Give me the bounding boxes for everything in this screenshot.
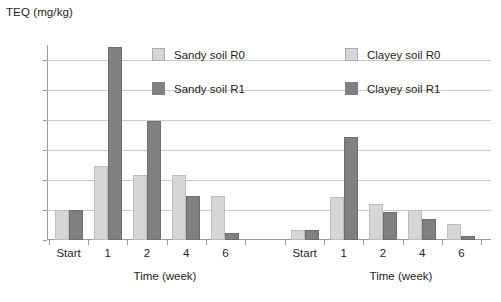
- bar: [330, 197, 344, 241]
- x-tick-label: 2: [380, 247, 386, 259]
- bar: [344, 137, 358, 241]
- y-tick-mark: [43, 180, 47, 181]
- y-tick-mark: [43, 240, 47, 241]
- y-tick-mark: [43, 60, 47, 61]
- bar: [225, 233, 239, 240]
- legend-item: Sandy soil R0: [152, 48, 245, 61]
- bar: [447, 224, 461, 241]
- bar: [211, 196, 225, 240]
- bar-chart: TEQ (mg/kg) 0102030405060Start1246Time (…: [0, 0, 501, 302]
- x-tick-label: 4: [183, 247, 189, 259]
- x-tick-mark: [403, 240, 404, 245]
- legend-item: Clayey soil R1: [345, 82, 441, 95]
- legend-label: Clayey soil R1: [367, 83, 441, 95]
- bar: [186, 196, 200, 240]
- x-tick-mark: [442, 240, 443, 245]
- bar: [461, 236, 475, 241]
- legend-swatch-icon: [152, 82, 165, 95]
- panel-sandy-soil: Start1246Time (week): [49, 45, 245, 240]
- bar: [147, 121, 161, 240]
- bar: [55, 210, 69, 240]
- x-tick-label: 2: [144, 247, 150, 259]
- bar: [133, 175, 147, 240]
- legend-swatch-icon: [152, 48, 165, 61]
- x-tick-label: Start: [292, 247, 316, 259]
- legend-item: Sandy soil R1: [152, 82, 245, 95]
- legend-swatch-icon: [345, 48, 358, 61]
- bar: [305, 230, 319, 241]
- legend-swatch-icon: [345, 82, 358, 95]
- bar: [408, 210, 422, 240]
- bar: [383, 212, 397, 241]
- x-tick-label: Start: [56, 247, 80, 259]
- legend-label: Sandy soil R0: [174, 49, 245, 61]
- bar: [94, 166, 108, 240]
- plot-area: 0102030405060Start1246Time (week)Start12…: [47, 45, 491, 240]
- x-tick-mark: [324, 240, 325, 245]
- bar: [172, 175, 186, 240]
- bar: [369, 204, 383, 240]
- legend-item: Clayey soil R0: [345, 48, 441, 61]
- legend-label: Clayey soil R0: [367, 49, 441, 61]
- x-tick-mark: [127, 240, 128, 245]
- x-tick-label: 6: [458, 247, 464, 259]
- x-tick-mark: [167, 240, 168, 245]
- x-tick-mark: [206, 240, 207, 245]
- x-tick-label: 6: [222, 247, 228, 259]
- y-axis-title: TEQ (mg/kg): [6, 6, 73, 18]
- x-tick-mark: [285, 240, 286, 245]
- x-tick-label: 1: [341, 247, 347, 259]
- y-tick-mark: [43, 120, 47, 121]
- x-tick-label: 1: [105, 247, 111, 259]
- panel-clayey-soil: Start1246Time (week): [285, 45, 481, 240]
- bar: [108, 47, 122, 241]
- y-tick-mark: [43, 210, 47, 211]
- x-tick-mark: [88, 240, 89, 245]
- x-axis-title: Time (week): [370, 270, 433, 282]
- y-tick-mark: [43, 90, 47, 91]
- x-tick-mark: [245, 240, 246, 245]
- x-tick-label: 4: [419, 247, 425, 259]
- bar: [291, 230, 305, 241]
- x-tick-mark: [49, 240, 50, 245]
- y-tick-mark: [43, 150, 47, 151]
- legend-label: Sandy soil R1: [174, 83, 245, 95]
- bar: [69, 210, 83, 240]
- bar: [422, 219, 436, 240]
- x-tick-mark: [481, 240, 482, 245]
- x-tick-mark: [363, 240, 364, 245]
- x-axis-title: Time (week): [134, 270, 197, 282]
